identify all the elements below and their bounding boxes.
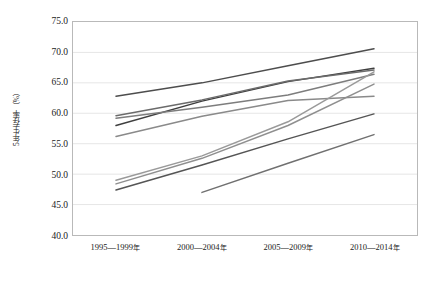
line-series-4 bbox=[116, 74, 374, 118]
line-series-2 bbox=[116, 68, 374, 125]
y-tick-label: 40.0 bbox=[26, 231, 68, 241]
y-tick-label: 60.0 bbox=[26, 108, 68, 118]
x-tick-label: 2005—2009年 bbox=[245, 242, 332, 266]
line-series-9 bbox=[202, 135, 374, 193]
y-tick-label: 75.0 bbox=[26, 16, 68, 26]
line-series-6 bbox=[116, 72, 374, 180]
x-axis-tick-labels: 1995—1999年2000—2004年2005—2009年2010—2014年 bbox=[72, 242, 418, 266]
y-tick-label: 50.0 bbox=[26, 170, 68, 180]
series-lines bbox=[73, 22, 417, 235]
x-tick-label: 2000—2004年 bbox=[159, 242, 246, 266]
x-tick-label: 2010—2014年 bbox=[332, 242, 419, 266]
plot-area bbox=[72, 21, 418, 236]
y-tick-label: 55.0 bbox=[26, 139, 68, 149]
y-tick-label: 45.0 bbox=[26, 200, 68, 210]
y-axis-tick-labels: 75.070.065.060.055.050.045.040.0 bbox=[26, 0, 68, 295]
y-tick-label: 70.0 bbox=[26, 47, 68, 57]
line-series-1 bbox=[116, 49, 374, 96]
x-tick-label: 1995—1999年 bbox=[72, 242, 159, 266]
y-tick-label: 65.0 bbox=[26, 77, 68, 87]
chart-root: 5年生存率（%） 75.070.065.060.055.050.045.040.… bbox=[0, 0, 436, 295]
